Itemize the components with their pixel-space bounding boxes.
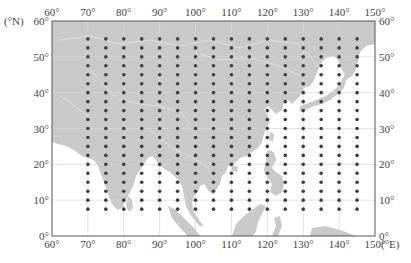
grid-point <box>230 171 234 175</box>
grid-point <box>355 127 359 131</box>
grid-point <box>194 91 198 95</box>
grid-point <box>176 171 180 175</box>
grid-point <box>355 91 359 95</box>
grid-point <box>140 73 144 77</box>
grid-point <box>301 154 305 158</box>
grid-point <box>283 154 287 158</box>
grid-point <box>212 145 216 149</box>
grid-point <box>122 37 126 41</box>
grid-point <box>248 100 252 104</box>
grid-point <box>86 189 90 193</box>
grid-point <box>355 207 359 211</box>
grid-point <box>104 207 108 211</box>
grid-point <box>266 189 270 193</box>
grid-point <box>104 100 108 104</box>
grid-point <box>122 91 126 95</box>
grid-point <box>355 46 359 50</box>
grid-point <box>176 189 180 193</box>
grid-point <box>230 118 234 122</box>
grid-point <box>122 127 126 131</box>
grid-point <box>194 171 198 175</box>
grid-point <box>86 180 90 184</box>
grid-point <box>176 64 180 68</box>
grid-point <box>176 198 180 202</box>
grid-point <box>158 163 162 167</box>
grid-point <box>86 73 90 77</box>
grid-point <box>140 100 144 104</box>
grid-point <box>86 55 90 59</box>
grid-point <box>266 118 270 122</box>
grid-point <box>230 37 234 41</box>
grid-point <box>158 91 162 95</box>
grid-point <box>158 100 162 104</box>
grid-point <box>301 127 305 131</box>
grid-point <box>355 171 359 175</box>
grid-point <box>140 37 144 41</box>
grid-point <box>194 136 198 140</box>
grid-point <box>194 118 198 122</box>
grid-point <box>337 127 341 131</box>
grid-point <box>230 64 234 68</box>
grid-point <box>212 100 216 104</box>
grid-point <box>194 64 198 68</box>
grid-point <box>212 127 216 131</box>
y-tick-label: 40° <box>34 87 49 99</box>
grid-point <box>266 64 270 68</box>
grid-point <box>355 163 359 167</box>
x-tick-label: 110° <box>221 238 242 250</box>
grid-point <box>194 180 198 184</box>
grid-point <box>355 109 359 113</box>
grid-point <box>158 198 162 202</box>
grid-point <box>266 46 270 50</box>
grid-point <box>266 91 270 95</box>
grid-point <box>301 207 305 211</box>
grid-point <box>122 118 126 122</box>
map-figure: 60°70°80°90°100°110°120°130°140°150° 60°… <box>0 0 411 263</box>
x-tick-label: 70° <box>80 238 95 250</box>
grid-point <box>212 37 216 41</box>
grid-point <box>337 145 341 149</box>
grid-point <box>212 91 216 95</box>
grid-point <box>355 189 359 193</box>
grid-point <box>355 154 359 158</box>
grid-point <box>86 154 90 158</box>
grid-point <box>140 198 144 202</box>
x-tick-label: 90° <box>152 238 167 250</box>
grid-point <box>140 82 144 86</box>
grid-point <box>355 118 359 122</box>
grid-point <box>176 163 180 167</box>
grid-point <box>319 145 323 149</box>
grid-point <box>230 154 234 158</box>
grid-point <box>86 109 90 113</box>
x-unit-label: (°E) <box>381 238 400 251</box>
grid-point <box>122 55 126 59</box>
grid-point <box>337 100 341 104</box>
grid-point <box>158 207 162 211</box>
grid-point <box>248 189 252 193</box>
grid-point <box>158 189 162 193</box>
grid-point <box>140 189 144 193</box>
y-tick-label: 40° <box>379 87 394 99</box>
grid-point <box>194 189 198 193</box>
grid-point <box>248 127 252 131</box>
grid-point <box>212 46 216 50</box>
grid-point <box>104 127 108 131</box>
y-tick-label: 10° <box>379 194 394 206</box>
grid-point <box>86 64 90 68</box>
grid-point <box>337 163 341 167</box>
grid-point <box>104 198 108 202</box>
grid-point <box>104 136 108 140</box>
grid-point <box>266 109 270 113</box>
grid-point <box>212 109 216 113</box>
grid-point <box>319 91 323 95</box>
grid-point <box>355 136 359 140</box>
grid-point <box>301 136 305 140</box>
grid-point <box>283 189 287 193</box>
grid-point <box>212 171 216 175</box>
grid-point <box>158 55 162 59</box>
grid-point <box>337 118 341 122</box>
grid-point <box>176 37 180 41</box>
grid-point <box>230 91 234 95</box>
grid-point <box>248 109 252 113</box>
grid-point <box>86 207 90 211</box>
